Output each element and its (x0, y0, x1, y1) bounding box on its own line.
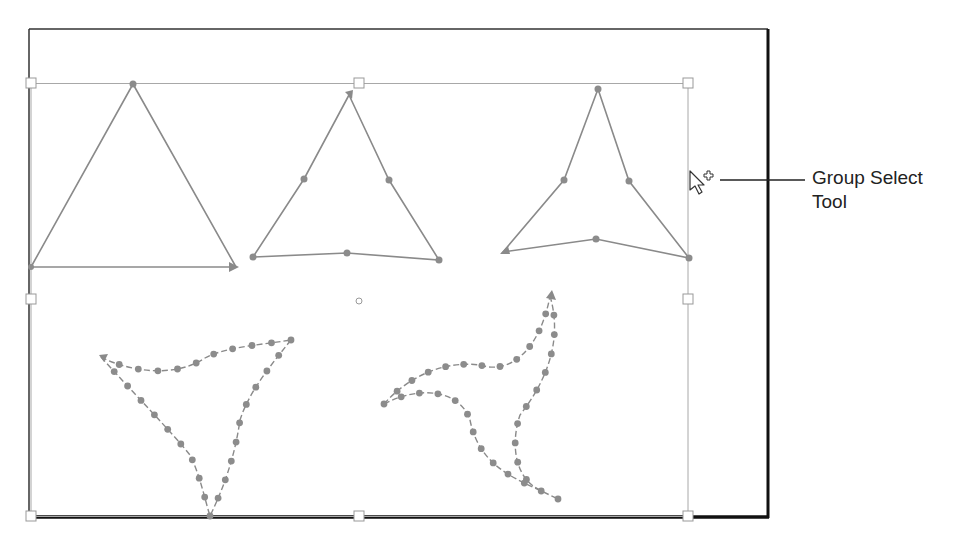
anchor-point (193, 360, 200, 367)
anchor-point (514, 459, 521, 466)
anchor-point (189, 456, 196, 463)
anchor-point (252, 384, 259, 391)
anchor-point (526, 343, 533, 350)
anchor-point (164, 426, 171, 433)
anchor-point (111, 368, 118, 375)
anchor-point (548, 351, 555, 358)
anchor-point (533, 387, 540, 394)
anchor-point (228, 458, 235, 465)
anchor-point (523, 403, 530, 410)
handle-top-center[interactable] (354, 78, 364, 88)
anchor-point (478, 445, 485, 452)
anchor-point (442, 363, 449, 370)
anchor-point (514, 420, 521, 427)
handle-middle-right[interactable] (683, 294, 693, 304)
anchor-point (538, 488, 545, 495)
anchor-point (249, 342, 256, 349)
anchor-point (233, 439, 240, 446)
anchor-point (196, 475, 203, 482)
anchor-point (464, 411, 471, 418)
center-point-icon (356, 298, 362, 304)
anchor-point (222, 476, 229, 483)
anchor-point (124, 383, 131, 390)
handle-top-right[interactable] (683, 78, 693, 88)
anchor-point (425, 369, 432, 376)
triangle-swirl-dotted[interactable] (384, 290, 558, 499)
callout-label: Group Select Tool (812, 166, 923, 214)
anchor-point (215, 495, 222, 502)
anchor-point (201, 494, 208, 501)
anchor-point (151, 411, 158, 418)
anchor-point (435, 390, 442, 397)
anchor-point (177, 441, 184, 448)
triangle-with-midpoints[interactable] (250, 90, 443, 264)
handle-bottom-center[interactable] (354, 511, 364, 521)
triangle-pinched[interactable] (500, 86, 693, 262)
anchor-point (264, 368, 271, 375)
anchor-point (135, 366, 142, 373)
anchor-point (398, 393, 405, 400)
anchor-point (490, 460, 497, 467)
callout-label-line2: Tool (812, 190, 923, 214)
anchor-point (542, 369, 549, 376)
anchor-point (523, 476, 530, 483)
anchor-points-dotted (111, 310, 562, 519)
anchor-point (243, 401, 250, 408)
anchor-point (394, 388, 401, 395)
anchor-point (138, 397, 145, 404)
handle-middle-left[interactable] (26, 294, 36, 304)
anchor-point (555, 496, 562, 503)
anchor-point (542, 310, 549, 317)
anchor-point (409, 377, 416, 384)
artboard-frame (29, 29, 769, 518)
handle-bottom-right[interactable] (683, 511, 693, 521)
anchor-point (505, 471, 512, 478)
anchor-point (381, 401, 388, 408)
anchor-point (116, 361, 123, 368)
anchor-point (512, 440, 519, 447)
anchor-point (551, 331, 558, 338)
anchor-point (497, 363, 504, 370)
anchor-point (513, 356, 520, 363)
anchor-point (452, 397, 459, 404)
handle-top-left[interactable] (26, 78, 36, 88)
callout-label-line1: Group Select (812, 166, 923, 190)
anchor-point (536, 327, 543, 334)
anchor-point (470, 429, 477, 436)
triangle-twisted-dotted[interactable] (99, 340, 291, 516)
anchor-point (275, 352, 282, 359)
anchor-point (174, 366, 181, 373)
anchor-point (416, 390, 423, 397)
handle-bottom-left[interactable] (26, 511, 36, 521)
anchor-point (210, 351, 217, 358)
anchor-point (155, 367, 162, 374)
anchor-point (207, 513, 214, 520)
anchor-point (229, 345, 236, 352)
anchor-point (236, 419, 243, 426)
artboard-canvas[interactable] (0, 0, 966, 538)
anchor-point (460, 361, 467, 368)
anchor-point (288, 337, 295, 344)
anchor-point (268, 339, 275, 346)
anchor-point (551, 312, 558, 319)
triangle-plain[interactable] (28, 81, 239, 273)
anchor-point (479, 362, 486, 369)
group-select-cursor-icon (690, 171, 713, 194)
